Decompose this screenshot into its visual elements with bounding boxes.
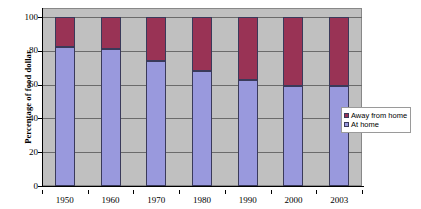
bar-segment bbox=[329, 17, 349, 86]
bar-group bbox=[55, 17, 75, 186]
y-axis-tick-label: 100 bbox=[14, 13, 38, 22]
legend-item: At home bbox=[344, 120, 407, 129]
bar-segment bbox=[101, 49, 121, 186]
legend-swatch-icon bbox=[344, 113, 349, 118]
x-axis-tick-label: 1950 bbox=[45, 195, 85, 205]
bar-segment bbox=[146, 61, 166, 186]
x-axis-tick-label: 2000 bbox=[273, 195, 313, 205]
y-axis-tick-mark bbox=[38, 186, 42, 187]
x-axis-tick-label: 1970 bbox=[136, 195, 176, 205]
bar-group bbox=[283, 17, 303, 186]
x-axis-tick-mark bbox=[42, 190, 43, 194]
x-axis-tick-mark bbox=[271, 190, 272, 194]
x-axis-tick-label: 2003 bbox=[319, 195, 359, 205]
x-axis-tick-label: 1990 bbox=[228, 195, 268, 205]
y-axis-line bbox=[42, 8, 43, 187]
y-axis-tick-mark bbox=[38, 118, 42, 119]
bar-segment bbox=[329, 86, 349, 186]
bar-group bbox=[192, 17, 212, 186]
x-axis-tick-mark bbox=[362, 190, 363, 194]
stacked-bar-chart: Percentage of food dollar 020406080100 1… bbox=[0, 0, 421, 209]
x-axis-line bbox=[42, 186, 364, 187]
x-axis-tick-mark bbox=[133, 190, 134, 194]
x-axis-tick-mark bbox=[316, 190, 317, 194]
bar-segment bbox=[101, 17, 121, 49]
y-axis-tick-mark bbox=[38, 85, 42, 86]
bar-segment bbox=[55, 17, 75, 47]
bar-segment bbox=[238, 17, 258, 80]
y-axis-tick-mark bbox=[38, 17, 42, 18]
y-axis-tick-label: 0 bbox=[14, 182, 38, 191]
bar-segment bbox=[283, 86, 303, 186]
plot-area bbox=[42, 17, 362, 186]
x-axis-tick-mark bbox=[225, 190, 226, 194]
y-axis-tick-labels: 020406080100 bbox=[14, 10, 38, 192]
bar-group bbox=[329, 17, 349, 186]
bar-segment bbox=[146, 17, 166, 61]
y-axis-tick-mark bbox=[38, 152, 42, 153]
y-axis-tick-label: 60 bbox=[14, 80, 38, 89]
x-axis-tick-label: 1980 bbox=[182, 195, 222, 205]
bar-segment bbox=[192, 71, 212, 186]
bar-segment bbox=[192, 17, 212, 71]
chart-legend: Away from homeAt home bbox=[341, 107, 411, 133]
legend-label: At home bbox=[351, 120, 379, 129]
bar-group bbox=[238, 17, 258, 186]
x-axis-tick-mark bbox=[88, 190, 89, 194]
x-axis-tick-labels: 1950196019701980199020002003 bbox=[42, 190, 362, 206]
bar-group bbox=[146, 17, 166, 186]
y-axis-tick-label: 20 bbox=[14, 148, 38, 157]
bar-segment bbox=[283, 17, 303, 86]
x-axis-tick-label: 1960 bbox=[91, 195, 131, 205]
y-axis-tick-label: 40 bbox=[14, 114, 38, 123]
legend-swatch-icon bbox=[344, 122, 349, 127]
bar-segment bbox=[238, 80, 258, 186]
x-axis-tick-mark bbox=[179, 190, 180, 194]
legend-item: Away from home bbox=[344, 111, 407, 120]
bar-segment bbox=[55, 47, 75, 186]
y-axis-tick-mark bbox=[38, 51, 42, 52]
legend-label: Away from home bbox=[351, 111, 407, 120]
bar-group bbox=[101, 17, 121, 186]
y-axis-tick-label: 80 bbox=[14, 46, 38, 55]
